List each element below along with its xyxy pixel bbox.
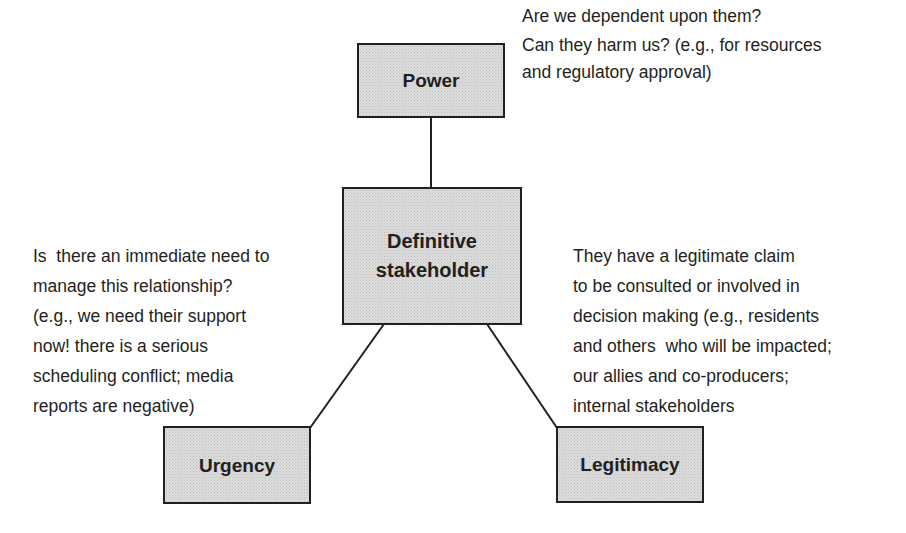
annotation-legitimacy-line: decision making (e.g., residents [573, 301, 832, 331]
node-legitimacy-label: Legitimacy [580, 451, 679, 478]
annotation-legitimacy-line: to be consulted or involved in [573, 271, 832, 301]
annotation-urgency: Is there an immediate need to manage thi… [33, 241, 269, 421]
annotation-urgency-line: now! there is a serious [33, 331, 269, 361]
node-legitimacy: Legitimacy [556, 426, 704, 503]
annotation-power-line: Are we dependent upon them? [522, 3, 822, 30]
annotation-urgency-line: Is there an immediate need to [33, 241, 269, 271]
annotation-urgency-line: scheduling conflict; media [33, 361, 269, 391]
annotation-legitimacy-line: and others who will be impacted; [573, 331, 832, 361]
node-power-label: Power [402, 67, 459, 94]
annotation-urgency-line: (e.g., we need their support [33, 301, 269, 331]
annotation-legitimacy: They have a legitimate claim to be consu… [573, 241, 832, 421]
annotation-legitimacy-line: They have a legitimate claim [573, 241, 832, 271]
annotation-power: Are we dependent upon them? Can they har… [522, 3, 822, 86]
node-power: Power [357, 43, 505, 118]
edge-definitive-urgency [310, 324, 384, 428]
edge-definitive-legitimacy [487, 324, 557, 428]
node-urgency: Urgency [163, 426, 311, 504]
node-definitive-stakeholder: Definitive stakeholder [342, 187, 522, 325]
annotation-legitimacy-line: our allies and co-producers; [573, 361, 832, 391]
node-definitive-label-line-1: Definitive [376, 227, 488, 256]
node-urgency-label: Urgency [199, 452, 275, 479]
annotation-urgency-line: manage this relationship? [33, 271, 269, 301]
annotation-power-line: and regulatory approval) [522, 59, 822, 86]
annotation-legitimacy-line: internal stakeholders [573, 391, 832, 421]
annotation-urgency-line: reports are negative) [33, 391, 269, 421]
node-definitive-label-line-2: stakeholder [376, 256, 488, 285]
annotation-power-line: Can they harm us? (e.g., for resources [522, 32, 822, 59]
